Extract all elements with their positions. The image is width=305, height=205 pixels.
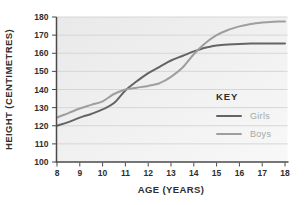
y-axis-title: HEIGHT (CENTIMETRES) (3, 15, 16, 165)
x-tick-label: 14 (189, 168, 199, 178)
y-tick-label: 160 (34, 48, 48, 58)
legend-item-girls: Girls (216, 107, 271, 125)
x-tick-label: 16 (235, 168, 245, 178)
x-tick-label: 8 (55, 168, 60, 178)
y-tick-label: 140 (34, 85, 48, 95)
x-tick-label: 15 (212, 168, 222, 178)
x-tick-label: 12 (143, 168, 153, 178)
y-tick-label: 170 (34, 30, 48, 40)
y-tick-label: 180 (34, 12, 48, 22)
legend-label-boys: Boys (250, 129, 271, 139)
x-axis-title: AGE (YEARS) (57, 184, 285, 195)
y-tick-label: 100 (34, 157, 48, 167)
y-tick-label: 150 (34, 66, 48, 76)
y-tick-label: 130 (34, 103, 48, 113)
boys-line-swatch (216, 133, 242, 136)
y-tick-label: 120 (34, 121, 48, 131)
legend-item-boys: Boys (216, 125, 271, 143)
legend-label-girls: Girls (250, 111, 270, 121)
x-tick-label: 11 (121, 168, 130, 178)
x-tick-label: 10 (98, 168, 108, 178)
x-tick-label: 17 (257, 168, 267, 178)
height-age-chart: 8910111213141516171810011012013014015016… (0, 0, 305, 205)
girls-line-swatch (216, 115, 242, 118)
legend-title: KEY (216, 91, 271, 102)
x-tick-label: 13 (166, 168, 176, 178)
x-tick-label: 18 (280, 168, 290, 178)
x-tick-label: 9 (77, 168, 82, 178)
y-tick-label: 110 (35, 139, 49, 149)
legend: KEY Girls Boys (216, 91, 271, 143)
